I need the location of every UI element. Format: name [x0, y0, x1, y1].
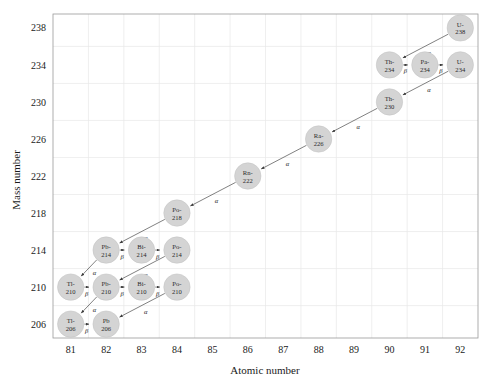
isotope-symbol: Rn-	[243, 169, 253, 176]
y-tick-label: 218	[31, 208, 46, 219]
isotope-symbol: Pb-	[102, 280, 111, 287]
decay-type-label: β	[84, 290, 89, 297]
y-axis-label: Mass number	[10, 150, 22, 210]
x-axis-label: Atomic number	[230, 364, 300, 376]
isotope-node[interactable]: Po-210	[164, 274, 190, 300]
isotope-mass: 214	[137, 251, 148, 258]
isotope-node[interactable]: U-238	[447, 15, 473, 41]
decay-type-label: β	[84, 327, 89, 334]
isotope-mass: 234	[455, 66, 466, 73]
isotope-symbol: Po-	[172, 206, 181, 213]
y-axis-ticks: 206210214218222226230234238	[31, 22, 46, 329]
y-tick-label: 234	[31, 60, 46, 71]
isotope-symbol: Pa-	[420, 58, 429, 65]
isotope-node[interactable]: Pb-214	[93, 237, 119, 263]
isotope-node[interactable]: Ra-226	[305, 126, 331, 152]
isotope-node[interactable]: Tl-206	[58, 311, 84, 337]
isotope-mass: 234	[385, 66, 396, 73]
x-tick-label: 87	[278, 344, 288, 355]
x-tick-label: 81	[66, 344, 76, 355]
x-tick-label: 90	[384, 344, 394, 355]
isotope-symbol: Po-	[172, 243, 181, 250]
y-tick-label: 206	[31, 319, 46, 330]
isotope-symbol: Th-	[385, 95, 395, 102]
isotope-mass: 238	[455, 28, 466, 35]
isotope-mass: 210	[137, 288, 148, 295]
isotope-mass: 226	[314, 140, 325, 147]
decay-type-label: α	[93, 269, 97, 276]
x-tick-label: 82	[101, 344, 111, 355]
x-tick-label: 89	[349, 344, 359, 355]
isotope-node[interactable]: Th-230	[376, 89, 402, 115]
x-tick-label: 86	[243, 344, 253, 355]
isotope-symbol: Pb	[103, 317, 111, 324]
y-tick-label: 222	[31, 171, 46, 182]
isotope-node[interactable]: Po-214	[164, 237, 190, 263]
isotope-node[interactable]: Tl-210	[58, 274, 84, 300]
decay-type-label: α	[286, 160, 290, 167]
x-tick-label: 91	[420, 344, 430, 355]
isotope-node[interactable]: Bi-210	[128, 274, 154, 300]
isotope-mass: 218	[172, 214, 183, 221]
x-tick-label: 83	[137, 344, 147, 355]
isotope-node[interactable]: Pb206	[93, 311, 119, 337]
isotope-symbol: U-	[457, 58, 464, 65]
y-tick-label: 226	[31, 134, 46, 145]
isotope-symbol: Bi-	[137, 280, 145, 287]
y-tick-label: 238	[31, 22, 46, 33]
isotope-mass: 206	[66, 325, 77, 332]
isotope-mass: 230	[385, 103, 396, 110]
isotope-node[interactable]: Th-234	[376, 52, 402, 78]
isotope-node[interactable]: Bi-214	[128, 237, 154, 263]
decay-type-label: α	[427, 86, 431, 93]
isotope-mass: 210	[172, 288, 183, 295]
x-tick-label: 88	[314, 344, 324, 355]
decay-type-label: β	[438, 67, 443, 74]
isotope-mass: 210	[101, 288, 112, 295]
isotope-node[interactable]: Rn-222	[235, 163, 261, 189]
decay-type-label: β	[119, 290, 124, 297]
y-tick-label: 210	[31, 282, 46, 293]
decay-type-label: α	[215, 197, 219, 204]
isotope-node[interactable]: U-234	[447, 52, 473, 78]
y-tick-label: 214	[31, 245, 46, 256]
isotope-mass: 222	[243, 177, 253, 184]
isotope-symbol: Pb-	[102, 243, 111, 250]
x-tick-label: 92	[455, 344, 465, 355]
isotope-mass: 214	[101, 251, 112, 258]
isotope-mass: 210	[66, 288, 77, 295]
isotope-node[interactable]: Po-218	[164, 200, 190, 226]
isotope-symbol: Ra-	[314, 132, 324, 139]
isotope-mass: 234	[420, 66, 431, 73]
y-tick-label: 230	[31, 97, 46, 108]
isotope-mass: 206	[101, 325, 112, 332]
decay-type-label: α	[356, 123, 360, 130]
isotope-node[interactable]: Pa-234	[412, 52, 438, 78]
isotope-node[interactable]: Pb-210	[93, 274, 119, 300]
decay-chain-chart: 206210214218222226230234238 818283848586…	[0, 0, 491, 384]
isotope-symbol: Po-	[172, 280, 181, 287]
decay-type-label: α	[144, 308, 148, 315]
decay-type-label: β	[119, 253, 124, 260]
x-tick-label: 85	[207, 344, 217, 355]
x-axis-ticks: 818283848586878889909192	[66, 344, 466, 355]
isotope-symbol: Bi-	[137, 243, 145, 250]
decay-type-label: α	[93, 306, 97, 313]
isotope-symbol: Tl-	[67, 280, 75, 287]
isotope-mass: 214	[172, 251, 183, 258]
isotope-symbol: U-	[457, 21, 464, 28]
isotope-symbol: Tl-	[67, 317, 75, 324]
decay-type-label: β	[403, 67, 408, 74]
decay-chain-plot: 206210214218222226230234238 818283848586…	[0, 0, 491, 384]
x-tick-label: 84	[172, 344, 182, 355]
isotope-symbol: Th-	[385, 58, 395, 65]
